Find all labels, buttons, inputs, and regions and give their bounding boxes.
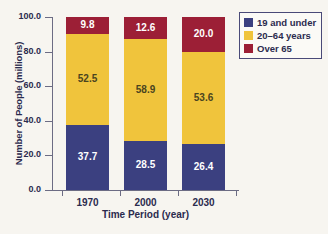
legend-item-20-64-years[interactable]: 20–64 years [244, 29, 316, 42]
bar-2030-segment-20-64[interactable]: 53.6 [182, 52, 225, 145]
bar-1970-segment-20-64[interactable]: 52.5 [66, 34, 109, 125]
bar-1970[interactable]: 9.8 52.5 37.7 [66, 17, 109, 190]
bar-2030-label-20-64: 53.6 [194, 93, 213, 103]
bar-2000-label-20-64: 58.9 [136, 85, 155, 95]
stacked-bar-chart-figure: Number of People (millions) 0.0 20.0 40.… [0, 0, 328, 234]
bar-2030-segment-19-and-under[interactable]: 26.4 [182, 144, 225, 190]
bar-1970-label-20-64: 52.5 [78, 74, 97, 84]
x-axis-line [52, 190, 239, 191]
bar-2000-label-over-65: 12.6 [136, 23, 155, 33]
y-tick-label-20: 20.0 [23, 149, 41, 159]
bar-2030-label-19-and-under: 26.4 [194, 162, 213, 172]
bar-1970-segment-over-65[interactable]: 9.8 [66, 17, 109, 34]
bar-1970-segment-19-and-under[interactable]: 37.7 [66, 125, 109, 190]
x-axis-title: Time Period (year) [52, 209, 239, 220]
bar-2030-label-over-65: 20.0 [194, 29, 213, 39]
chart-legend: 19 and under 20–64 years Over 65 [239, 12, 322, 59]
legend-item-over-65[interactable]: Over 65 [244, 42, 316, 55]
y-tick-label-40: 40.0 [23, 115, 41, 125]
legend-label-19-and-under: 19 and under [257, 17, 316, 28]
bar-2000-label-19-and-under: 28.5 [136, 160, 155, 170]
bar-1970-label-over-65: 9.8 [81, 20, 95, 30]
legend-label-over-65: Over 65 [257, 43, 292, 54]
y-tick-100: 100.0 [45, 17, 52, 18]
bar-2000-segment-20-64[interactable]: 58.9 [124, 39, 167, 141]
y-tick-label-80: 80.0 [23, 46, 41, 56]
plot-area: 0.0 20.0 40.0 60.0 80.0 100.0 9.8 52.5 3… [52, 17, 238, 190]
y-tick-40: 40.0 [45, 121, 52, 122]
legend-swatch-20-64-years [244, 31, 253, 40]
bar-2000-segment-over-65[interactable]: 12.6 [124, 17, 167, 39]
y-axis-title: Number of People (millions) [13, 24, 24, 184]
y-tick-0: 0.0 [45, 190, 52, 191]
y-tick-label-100: 100.0 [18, 11, 41, 21]
x-tick-2000 [120, 190, 121, 196]
x-tick-label-2030: 2030 [174, 197, 234, 208]
bar-2030[interactable]: 20.0 53.6 26.4 [182, 17, 225, 190]
x-tick-2030 [178, 190, 179, 196]
y-tick-80: 80.0 [45, 52, 52, 53]
bar-2030-segment-over-65[interactable]: 20.0 [182, 17, 225, 52]
bar-2000[interactable]: 12.6 58.9 28.5 [124, 17, 167, 190]
legend-item-19-and-under[interactable]: 19 and under [244, 16, 316, 29]
bar-2000-segment-19-and-under[interactable]: 28.5 [124, 141, 167, 190]
bar-1970-label-19-and-under: 37.7 [78, 152, 97, 162]
x-tick-1970 [62, 190, 63, 196]
y-tick-label-60: 60.0 [23, 80, 41, 90]
y-axis-line [52, 17, 53, 190]
y-tick-label-0: 0.0 [28, 184, 41, 194]
x-tick-label-2000: 2000 [116, 197, 176, 208]
x-tick-end [236, 190, 237, 196]
y-tick-20: 20.0 [45, 155, 52, 156]
legend-swatch-over-65 [244, 44, 253, 53]
legend-label-20-64-years: 20–64 years [257, 30, 311, 41]
x-tick-label-1970: 1970 [58, 197, 118, 208]
y-tick-60: 60.0 [45, 86, 52, 87]
legend-swatch-19-and-under [244, 18, 253, 27]
